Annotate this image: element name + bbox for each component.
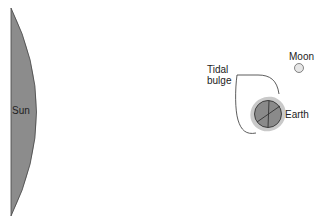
- tidal-bulge-label-line2: bulge: [207, 75, 231, 86]
- earth-label: Earth: [285, 109, 309, 120]
- moon-label: Moon: [289, 51, 314, 62]
- sun-label: Sun: [12, 105, 30, 116]
- tidal-bulge-label-line1: Tidal: [207, 64, 228, 75]
- diagram-canvas: [0, 0, 323, 222]
- moon-shape: [295, 64, 304, 73]
